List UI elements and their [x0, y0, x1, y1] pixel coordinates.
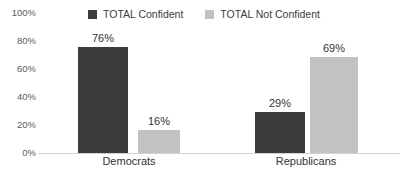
bar-value-label: 76%: [92, 33, 114, 44]
bar-value-label: 29%: [269, 98, 291, 109]
y-axis-tick-label: 20%: [0, 120, 36, 130]
bar-democrats-total-confident[interactable]: 76%: [78, 47, 128, 153]
y-axis-tick-label: 60%: [0, 64, 36, 74]
x-axis-baseline: [38, 153, 400, 154]
x-axis-category-label-democrats: Democrats: [102, 156, 155, 167]
bar-democrats-total-not-confident[interactable]: 16%: [138, 130, 180, 153]
bar-republicans-total-confident[interactable]: 29%: [255, 112, 305, 153]
bar-value-label: 16%: [148, 116, 170, 127]
y-axis-tick-label: 0%: [0, 148, 36, 158]
y-axis-tick-label: 100%: [0, 8, 36, 18]
y-axis-tick-label: 40%: [0, 92, 36, 102]
plot-area: 76% 16% 29% 69% Democrats Republicans: [38, 0, 404, 173]
x-axis-category-label-republicans: Republicans: [276, 156, 337, 167]
bar-chart: TOTAL Confident TOTAL Not Confident 100%…: [0, 0, 404, 173]
bar-republicans-total-not-confident[interactable]: 69%: [310, 57, 358, 153]
y-axis: 100% 80% 60% 40% 20% 0%: [0, 0, 36, 173]
bar-value-label: 69%: [323, 43, 345, 54]
y-axis-tick-label: 80%: [0, 36, 36, 46]
